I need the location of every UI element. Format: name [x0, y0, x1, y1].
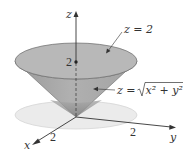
- y-tick-label: 2: [130, 125, 136, 139]
- x-tick-label: 2: [50, 130, 56, 144]
- z-axis-label: z: [65, 8, 72, 21]
- z-tick-label: 2: [66, 55, 72, 69]
- cone-diagram: z 2 x 2 y 2 z = 2 z = x² + y²: [0, 0, 189, 160]
- y-axis-label: y: [169, 131, 177, 144]
- cone-equation-radicand: x² + y²: [146, 84, 183, 97]
- y-axis-arrow-icon: [169, 125, 176, 130]
- x-axis-label: x: [24, 139, 31, 152]
- z2-point: [74, 60, 77, 63]
- plane-equation-label: z = 2: [123, 23, 153, 36]
- cone-equation-label: z = x² + y²: [116, 83, 183, 98]
- z-axis-arrow-icon: [74, 11, 79, 17]
- cone-equation-prefix: z =: [116, 84, 136, 97]
